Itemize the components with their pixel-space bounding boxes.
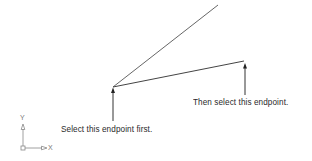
upper-line [113,5,218,87]
drawing-canvas [0,0,312,161]
ucs-y-label: Y [20,114,25,121]
second-endpoint-arrow-icon [243,63,247,95]
ucs-icon [21,124,47,150]
second-endpoint-label: Then select this endpoint. [193,96,288,107]
first-endpoint-label: Select this endpoint first. [61,123,152,134]
lower-line [113,61,244,87]
first-endpoint-arrow-icon [111,88,115,122]
ucs-x-label: X [48,144,53,151]
